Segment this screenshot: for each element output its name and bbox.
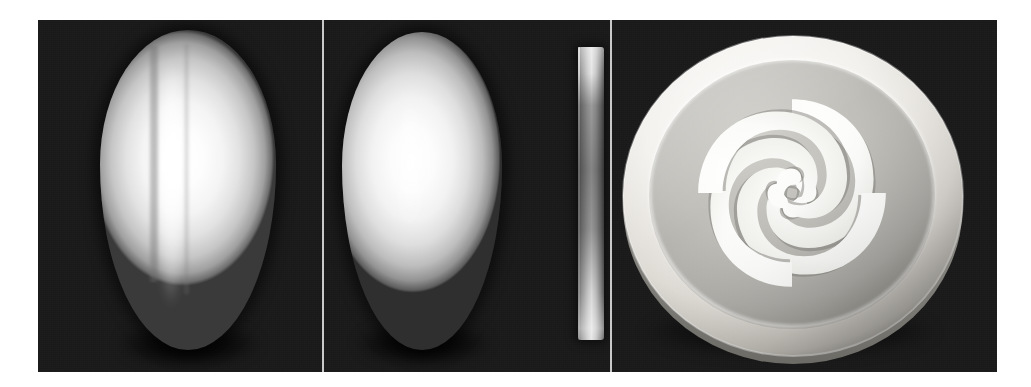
panel-b [324, 20, 610, 372]
panel-a [38, 20, 322, 372]
panel-divider-2 [610, 20, 612, 372]
tomoe-disc [618, 28, 968, 364]
panel-c [612, 20, 997, 372]
disc-lighting-wash [623, 36, 963, 356]
vertical-bar-shading [578, 47, 604, 340]
tomoe-disc-svg [618, 28, 968, 364]
smooth-ellipsoid [342, 32, 502, 350]
panel-divider-1 [322, 20, 324, 372]
vertical-bar [578, 47, 604, 340]
vertical-bar-edge-highlight [578, 47, 580, 340]
photo-plate [38, 20, 997, 372]
seamed-ellipsoid [100, 30, 276, 350]
figure-root [0, 0, 1031, 387]
